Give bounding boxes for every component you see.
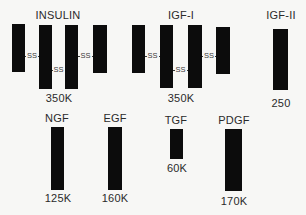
pdgf-label: PDGF [218, 115, 249, 126]
egf-subunit [108, 127, 122, 190]
tgf-subunit [170, 129, 183, 159]
igf1-ss-label-3: SS [203, 52, 215, 60]
tgf-label: TGF [165, 115, 188, 126]
insulin-mw: 350K [46, 93, 73, 104]
igf2-mw: 250 [272, 98, 291, 109]
insulin-ss-label-2: SS [52, 66, 64, 74]
igf1-beta-subunit-1 [160, 25, 173, 88]
insulin-ss-label-1: SS [26, 52, 38, 60]
tgf-mw: 60K [167, 163, 187, 174]
igf1-mw: 350K [168, 93, 195, 104]
insulin-ss-label-3: SS [79, 52, 91, 60]
egf-label: EGF [103, 113, 126, 124]
pdgf-subunit [225, 129, 242, 191]
igf2-subunit [273, 29, 288, 90]
ngf-subunit [51, 127, 64, 190]
insulin-alpha-subunit-1 [12, 24, 25, 72]
egf-mw: 160K [102, 193, 129, 204]
insulin-beta-subunit-1 [39, 25, 52, 89]
insulin-beta-subunit-2 [65, 25, 78, 89]
ngf-mw: 125K [45, 193, 72, 204]
igf1-alpha-subunit-2 [216, 27, 230, 74]
igf1-ss-label-2: SS [174, 66, 186, 74]
igf1-alpha-subunit-1 [132, 25, 145, 73]
igf1-beta-subunit-2 [188, 25, 202, 88]
igf1-label: IGF-I [168, 10, 194, 21]
insulin-label: INSULIN [36, 10, 81, 21]
insulin-alpha-subunit-2 [93, 25, 107, 73]
ngf-label: NGF [45, 113, 69, 124]
pdgf-mw: 170K [221, 196, 248, 207]
igf2-label: IGF-II [266, 10, 295, 21]
igf1-ss-label-1: SS [146, 52, 158, 60]
